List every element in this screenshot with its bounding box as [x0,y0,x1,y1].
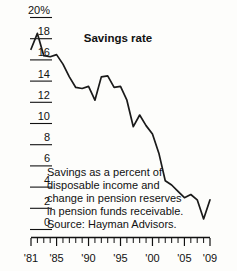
x-axis-tick-label: '05 [177,252,191,264]
y-axis-tick-label: 6 [44,152,50,164]
y-axis-tick-label: 14 [38,68,50,80]
x-axis-tick-label: '81 [24,252,38,264]
x-axis-tick-label: '95 [113,252,127,264]
y-axis-tick-label: 18 [38,25,50,37]
x-axis-tick-group [31,238,210,246]
caption-line-3: change in pension reserves [47,192,182,204]
caption-source-line: Source: Hayman Advisors. [47,218,177,230]
caption-line-4: in pension funds receivable. [47,205,183,217]
y-axis-tick-label: 10 [38,110,50,122]
x-axis-label-group: '81'85'90'95'00'05'09 [24,252,217,264]
x-axis-tick-label: '00 [145,252,159,264]
y-axis-tick-label: 8 [44,131,50,143]
caption-line-2: disposable income and [47,179,160,191]
y-axis-tick-label: 12 [38,89,50,101]
x-axis-tick-label: '85 [49,252,63,264]
x-axis-tick-label: '09 [203,252,217,264]
x-axis-tick-label: '90 [81,252,95,264]
chart-title: Savings rate [84,32,152,44]
chart-caption: Savings as a percent of disposable incom… [47,166,183,230]
caption-line-1: Savings as a percent of [47,166,163,178]
savings-rate-chart: 02468101214161820% '81'85'90'95'00'05'09… [0,0,237,271]
chart-canvas: 02468101214161820% '81'85'90'95'00'05'09… [0,0,237,271]
y-axis-tick-label: 20% [28,4,50,16]
